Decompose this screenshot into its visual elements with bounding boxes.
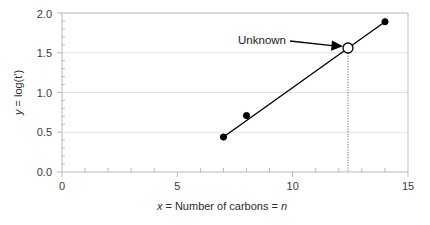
y-axis-title-rest: = log(t') — [12, 70, 24, 110]
chart-screenshot: 0.0 0.5 1.0 1.5 2.0 0 5 — [0, 0, 430, 225]
ytick-label-0: 0.0 — [37, 166, 52, 178]
data-point-marker — [220, 134, 226, 140]
svg-text:y = log(t'): y = log(t') — [12, 70, 24, 116]
ytick-label-4: 2.0 — [37, 8, 52, 20]
x-axis-title-variable-n: n — [281, 200, 287, 212]
ytick-label-3: 1.5 — [37, 47, 52, 59]
data-point-marker — [382, 19, 388, 25]
ytick-label-1: 0.5 — [37, 126, 52, 138]
y-axis-major-ticks — [57, 13, 62, 172]
x-axis-title: x = Number of carbons = n — [156, 200, 287, 212]
xtick-label-0: 0 — [59, 180, 65, 192]
data-point-marker — [243, 112, 249, 118]
line-chart: 0.0 0.5 1.0 1.5 2.0 0 5 — [0, 0, 430, 225]
xtick-label-3: 15 — [402, 180, 414, 192]
unknown-annotation-label: Unknown — [238, 34, 286, 46]
x-axis-major-ticks — [62, 172, 408, 177]
y-axis-title: y = log(t') — [12, 70, 24, 116]
unknown-point-marker — [343, 43, 353, 53]
xtick-label-1: 5 — [174, 180, 180, 192]
x-axis-title-middle: = Number of carbons = — [162, 200, 281, 212]
xtick-label-2: 10 — [287, 180, 299, 192]
ytick-label-2: 1.0 — [37, 87, 52, 99]
